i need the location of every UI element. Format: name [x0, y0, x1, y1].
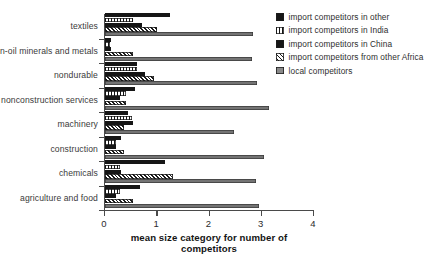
category-label-non-oil-minerals-and-metals: non-oil minerals and metals: [0, 46, 98, 56]
legend-swatch-icon: [276, 13, 284, 21]
bar: [105, 96, 121, 100]
category-label-agriculture-and-food: agriculture and food: [20, 193, 98, 203]
y-axis-tick: [99, 112, 104, 113]
y-axis-tick: [99, 88, 104, 89]
bar: [105, 194, 116, 198]
bar: [105, 121, 134, 125]
bar: [105, 185, 141, 189]
bar: [105, 13, 170, 17]
bar: [105, 125, 125, 129]
bar: [105, 150, 125, 154]
legend-swatch-icon: [276, 27, 284, 35]
bar: [105, 204, 259, 208]
bar: [105, 47, 111, 51]
bar: [105, 81, 258, 85]
x-axis-tick-label: 4: [310, 218, 315, 229]
bar: [105, 91, 127, 95]
legend-label: import competitors in other: [289, 12, 390, 22]
bar: [105, 136, 122, 140]
bar: [105, 23, 143, 27]
x-axis-tick: [104, 211, 105, 216]
x-axis-tick-label: 0: [101, 218, 106, 229]
bar: [105, 165, 121, 169]
bar: [105, 76, 155, 80]
legend-item: import competitors in India: [276, 25, 424, 35]
bar: [105, 160, 165, 164]
y-axis-tick: [99, 39, 104, 40]
bar: [105, 87, 135, 91]
bar: [105, 179, 257, 183]
bar: [105, 18, 134, 22]
bar: [105, 145, 116, 149]
category-label-machinery: machinery: [57, 119, 98, 129]
bar: [105, 140, 116, 144]
x-axis-tick-label: 1: [154, 218, 159, 229]
bar: [105, 106, 270, 110]
category-label-construction: construction: [50, 144, 98, 154]
bar: [105, 155, 264, 159]
bar: [105, 111, 129, 115]
bar: [105, 189, 121, 193]
x-axis-tick-label: 3: [258, 218, 263, 229]
chart-legend: import competitors in otherimport compet…: [276, 12, 424, 76]
y-axis-tick: [99, 210, 104, 211]
bar: [105, 52, 134, 56]
category-label-textiles: textiles: [70, 21, 98, 31]
bar: [105, 116, 132, 120]
legend-swatch-icon: [276, 40, 284, 48]
bar: [105, 130, 235, 134]
x-axis-tick: [209, 211, 210, 216]
legend-label: import competitors in China: [289, 39, 393, 49]
y-axis-tick: [99, 186, 104, 187]
legend-item: local competitors: [276, 66, 424, 76]
category-label-nonconstruction-services: nonconstruction services: [1, 95, 98, 105]
x-axis-tick-label: 2: [206, 218, 211, 229]
y-axis-tick: [99, 63, 104, 64]
x-axis-tick: [313, 211, 314, 216]
y-axis-tick: [99, 137, 104, 138]
bar: [105, 27, 157, 31]
legend-swatch-icon: [276, 67, 284, 75]
legend-label: import competitors in India: [289, 25, 389, 35]
bar: [105, 62, 137, 66]
bar: [105, 174, 174, 178]
bar: [105, 57, 252, 61]
legend-item: import competitors in other: [276, 12, 424, 22]
legend-swatch-icon: [276, 53, 284, 61]
y-axis-tick: [99, 161, 104, 162]
legend-label: import competitors from other Africa: [289, 52, 424, 62]
x-axis-tick: [156, 211, 157, 216]
bar: [105, 101, 127, 105]
bar: [105, 67, 137, 71]
legend-item: import competitors from other Africa: [276, 52, 424, 62]
bar: [105, 199, 134, 203]
bar: [105, 42, 110, 46]
x-axis-tick: [261, 211, 262, 216]
bar: [105, 72, 146, 76]
bar: [105, 32, 254, 36]
legend-label: local competitors: [289, 66, 353, 76]
x-axis-title: mean size category for number of competi…: [104, 232, 314, 254]
bar: [105, 38, 111, 42]
category-label-nondurable: nondurable: [54, 70, 98, 80]
bar: [105, 170, 122, 174]
category-label-chemicals: chemicals: [59, 168, 98, 178]
legend-item: import competitors in China: [276, 39, 424, 49]
